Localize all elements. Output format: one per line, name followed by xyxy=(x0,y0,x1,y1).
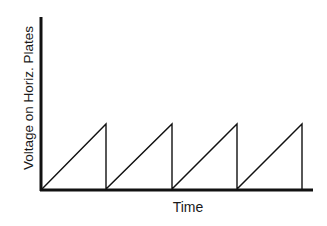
sawtooth-diagram: Voltage on Horiz. Plates Time xyxy=(0,0,327,226)
y-axis-label: Voltage on Horiz. Plates xyxy=(21,26,36,170)
diagram-canvas xyxy=(0,0,327,226)
sawtooth-waveform xyxy=(42,124,302,189)
x-axis-label: Time xyxy=(173,199,204,215)
